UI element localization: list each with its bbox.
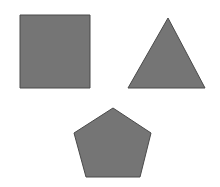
shapes-illustration [0,0,220,187]
shapes-canvas [0,0,220,187]
square-shape [20,15,90,88]
